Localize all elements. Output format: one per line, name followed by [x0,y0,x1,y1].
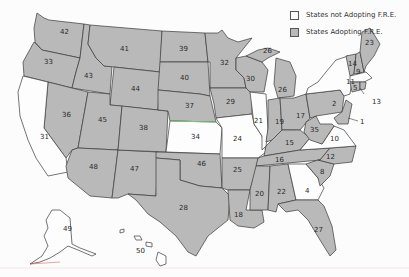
state-47 [112,150,158,198]
svg-text:39: 39 [179,45,188,53]
svg-text:26: 26 [278,86,287,94]
svg-text:47: 47 [130,165,139,173]
svg-text:21: 21 [254,117,263,125]
legend: States not Adopting F.R.E. States Adopti… [290,9,396,43]
state-27 [278,200,336,256]
state-50-a [120,229,124,233]
svg-text:43: 43 [84,72,93,80]
svg-text:13: 13 [372,98,381,106]
svg-text:8: 8 [320,168,324,176]
svg-text:17: 17 [296,112,305,120]
svg-text:19: 19 [275,118,284,126]
state-50-d [156,252,166,266]
svg-text:18: 18 [234,211,243,219]
svg-text:25: 25 [233,166,242,174]
svg-text:4: 4 [305,187,310,195]
svg-text:9: 9 [356,68,360,76]
legend-not-adopting: States not Adopting F.R.E. [290,9,396,21]
svg-text:5: 5 [353,84,357,92]
state-49 [30,210,96,264]
legend-label-adopting: States Adopting F.R.E. [306,28,383,36]
svg-text:10: 10 [330,135,339,143]
svg-text:22: 22 [277,188,286,196]
state-11 [306,56,352,96]
svg-text:12: 12 [326,153,335,161]
svg-text:32: 32 [220,59,229,67]
svg-text:15: 15 [285,139,294,147]
state-13 [360,82,366,90]
svg-text:33: 33 [44,58,53,66]
svg-text:14: 14 [348,60,357,68]
state-50-c [146,242,152,247]
legend-label-not-adopting: States not Adopting F.R.E. [306,11,396,19]
svg-text:49: 49 [63,225,72,233]
svg-text:26: 26 [263,47,272,55]
state-2 [306,90,344,118]
svg-text:38: 38 [139,124,148,132]
svg-text:16: 16 [275,156,284,164]
svg-text:24: 24 [233,135,242,143]
svg-text:41: 41 [120,45,129,53]
svg-text:50: 50 [136,247,145,255]
state-48 [66,148,118,198]
svg-text:30: 30 [246,75,255,83]
svg-text:28: 28 [179,204,188,212]
svg-text:1: 1 [360,118,364,126]
swatch-not-adopting [290,11,299,20]
svg-text:42: 42 [60,28,69,36]
state-50-b [134,236,142,240]
svg-text:37: 37 [185,102,194,110]
svg-text:45: 45 [98,116,107,124]
svg-text:20: 20 [255,190,264,198]
svg-text:44: 44 [131,85,140,93]
svg-text:46: 46 [197,160,206,168]
svg-text:2: 2 [332,100,336,108]
svg-text:29: 29 [226,98,235,106]
legend-adopting: States Adopting F.R.E. [290,26,396,38]
svg-text:27: 27 [314,226,323,234]
svg-text:40: 40 [180,74,189,82]
svg-text:36: 36 [62,111,71,119]
svg-text:35: 35 [310,126,319,134]
svg-text:34: 34 [191,133,200,141]
swatch-adopting [290,28,299,37]
svg-text:31: 31 [40,133,49,141]
svg-text:48: 48 [89,163,98,171]
